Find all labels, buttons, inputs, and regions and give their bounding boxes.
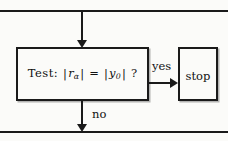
stop-box[interactable]: stop <box>178 47 218 101</box>
edge-yes-label: yes <box>152 59 171 73</box>
edge-no-label: no <box>92 107 106 121</box>
bottom-rule-divider <box>0 131 228 133</box>
test-box-label: Test: |rα| = |y0| ? <box>18 66 147 81</box>
edge-yes-line <box>149 82 172 84</box>
flowchart-figure: Test: |rα| = |y0| ? yes stop no <box>0 0 228 141</box>
edge-in-line <box>81 10 83 43</box>
test-var-y: y <box>109 66 116 80</box>
top-rule-divider <box>0 10 228 12</box>
test-bar-close-1: | <box>79 66 85 80</box>
test-equals-sign: = <box>89 66 99 80</box>
stop-box-label: stop <box>180 69 216 83</box>
test-question-mark: ? <box>131 66 137 80</box>
edge-yes-arrowhead-icon <box>170 78 178 88</box>
test-label-prefix: Test: <box>28 66 58 80</box>
test-box[interactable]: Test: |rα| = |y0| ? <box>16 47 149 101</box>
test-bar-close-2: | <box>121 66 127 80</box>
